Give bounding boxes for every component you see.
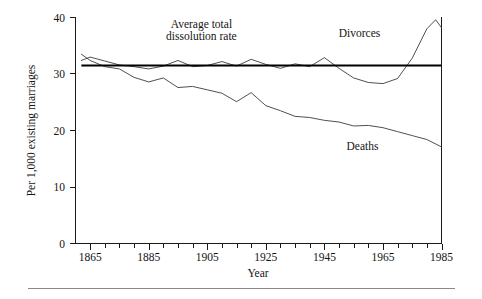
series-label-deaths: Deaths — [346, 140, 378, 152]
x-axis-ticks — [91, 244, 443, 250]
annotation-label-line1: Average total — [171, 18, 232, 31]
x-tick-label-1865: 1865 — [79, 251, 102, 263]
y-tick-label-0: 0 — [59, 238, 65, 250]
x-tick-label-1945: 1945 — [313, 251, 336, 263]
y-axis-ticks — [70, 18, 76, 244]
line-chart-canvas: 40 30 20 10 0 Per 1,000 existing marriag… — [0, 0, 482, 299]
y-tick-label-10: 10 — [54, 181, 66, 193]
x-tick-label-1885: 1885 — [137, 251, 160, 263]
y-tick-label-20: 20 — [54, 125, 66, 137]
series-line-deaths — [81, 54, 441, 147]
series-label-divorces: Divorces — [339, 27, 381, 39]
x-axis-tick-labels: 1865188519051925194519651985 — [79, 251, 454, 263]
x-tick-label-1965: 1965 — [371, 251, 394, 263]
y-axis-title: Per 1,000 existing marriages — [25, 64, 38, 196]
x-axis-title: Year — [247, 267, 268, 279]
y-tick-label-40: 40 — [54, 12, 66, 24]
y-tick-label-30: 30 — [54, 68, 66, 80]
chart-figure: 40 30 20 10 0 Per 1,000 existing marriag… — [0, 0, 482, 299]
x-tick-label-1925: 1925 — [254, 251, 277, 263]
annotation-label-line2: dissolution rate — [166, 30, 237, 42]
x-tick-label-1905: 1905 — [196, 251, 219, 263]
x-tick-label-1985: 1985 — [430, 251, 453, 263]
series-line-divorces — [81, 20, 441, 84]
y-axis-tick-labels: 40 30 20 10 0 — [54, 12, 66, 250]
